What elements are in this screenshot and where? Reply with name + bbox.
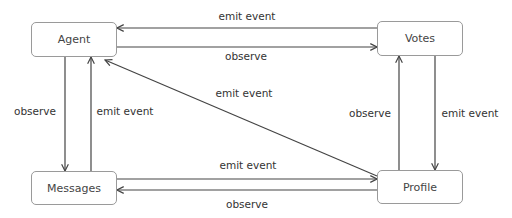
edge-label-messages-profile: emit event: [220, 159, 277, 171]
node-messages-label: Messages: [47, 182, 101, 195]
node-agent: Agent: [31, 22, 117, 57]
edge-label-agent-messages: observe: [14, 105, 56, 117]
edge-label-agent-votes: observe: [225, 50, 267, 62]
edge-label-profile-agent: emit event: [216, 87, 273, 99]
edge-label-profile-votes: observe: [349, 107, 391, 119]
node-profile: Profile: [377, 170, 463, 204]
edge-label-votes-profile: emit event: [442, 107, 499, 119]
edge-label-profile-messages: observe: [226, 198, 268, 210]
edge-label-votes-agent: emit event: [219, 10, 276, 22]
node-agent-label: Agent: [58, 33, 91, 46]
node-messages: Messages: [31, 171, 117, 205]
node-profile-label: Profile: [403, 181, 437, 194]
node-votes: Votes: [377, 21, 463, 56]
edge-label-messages-agent: emit event: [97, 105, 154, 117]
node-votes-label: Votes: [405, 32, 435, 45]
